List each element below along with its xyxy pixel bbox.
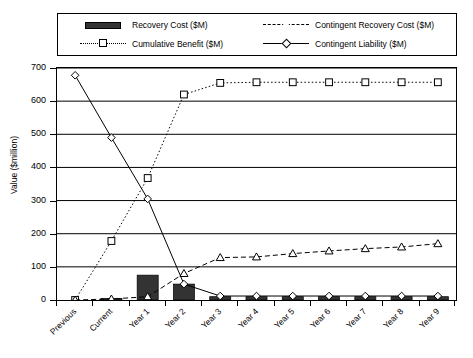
x-tick-label-year-2: Year 2	[164, 307, 188, 331]
marker-square-10	[434, 79, 441, 86]
marker-triangle-6	[289, 250, 297, 257]
y-tick-label-600: 600	[14, 96, 46, 105]
marker-diamond-2	[144, 195, 152, 203]
marker-square-2	[144, 175, 151, 182]
y-axis-tick-labels: 0100200300400500600700	[14, 67, 52, 301]
marker-triangle-10	[434, 240, 442, 247]
plot-area	[56, 67, 457, 301]
x-tick-label-year-9: Year 9	[418, 307, 442, 331]
marker-triangle-8	[361, 245, 369, 252]
marker-square-7	[326, 79, 333, 86]
legend-entry-recovery-cost: Recovery Cost ($M)	[80, 16, 208, 34]
y-tick-label-300: 300	[14, 196, 46, 205]
x-tick-label-year-6: Year 6	[309, 307, 333, 331]
marker-square-5	[253, 79, 260, 86]
marker-square-9	[398, 79, 405, 86]
marker-square-4	[217, 80, 224, 87]
marker-triangle-4	[216, 254, 224, 261]
x-axis-tick-labels: PreviousCurrentYear 1Year 2Year 3Year 4Y…	[56, 301, 457, 358]
x-tick-label-year-7: Year 7	[345, 307, 369, 331]
legend-label-contingent-recovery-cost: Contingent Recovery Cost ($M)	[315, 20, 434, 30]
series-line-2	[75, 75, 438, 296]
chart-container: Recovery Cost ($M) Cumulative Benefit ($…	[0, 0, 473, 358]
y-tick-label-700: 700	[14, 63, 46, 72]
x-tick-label-year-3: Year 3	[200, 307, 224, 331]
legend-label-recovery-cost: Recovery Cost ($M)	[132, 20, 208, 30]
x-tick-label-current: Current	[88, 307, 114, 333]
legend-entry-contingent-recovery-cost: Contingent Recovery Cost ($M)	[263, 16, 434, 34]
marker-diamond-1	[108, 134, 116, 142]
marker-square-1	[108, 238, 115, 245]
x-tick-label-year-5: Year 5	[273, 307, 297, 331]
y-tick-label-400: 400	[14, 162, 46, 171]
y-tick-label-500: 500	[14, 129, 46, 138]
legend-swatch-dotted-square-icon	[80, 37, 126, 51]
legend-entry-contingent-liability: Contingent Liability ($M)	[263, 35, 407, 53]
marker-diamond-0	[71, 71, 79, 79]
x-tick-label-year-4: Year 4	[236, 307, 260, 331]
plot-svg	[57, 68, 456, 300]
y-tick-label-100: 100	[14, 262, 46, 271]
x-tick-label-year-8: Year 8	[381, 307, 405, 331]
legend-swatch-bar-icon	[80, 18, 126, 32]
legend-label-contingent-liability: Contingent Liability ($M)	[315, 39, 407, 49]
chart-legend: Recovery Cost ($M) Cumulative Benefit ($…	[57, 13, 457, 56]
legend-swatch-dashed-triangle-icon	[263, 18, 309, 32]
marker-triangle-1	[107, 295, 115, 300]
marker-square-8	[362, 79, 369, 86]
legend-swatch-solid-diamond-icon	[263, 37, 309, 51]
marker-square-3	[181, 91, 188, 98]
legend-entry-cumulative-benefit: Cumulative Benefit ($M)	[80, 35, 223, 53]
legend-label-cumulative-benefit: Cumulative Benefit ($M)	[132, 39, 223, 49]
y-tick-label-0: 0	[14, 295, 46, 304]
marker-square-6	[289, 79, 296, 86]
x-tick-label-year-1: Year 1	[128, 307, 152, 331]
marker-triangle-3	[180, 269, 188, 276]
x-tick-label-previous: Previous	[49, 307, 79, 337]
y-tick-label-200: 200	[14, 229, 46, 238]
